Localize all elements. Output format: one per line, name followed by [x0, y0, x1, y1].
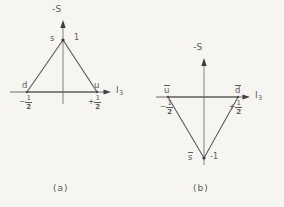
panel-b: -S I3 u d −12 +12 s -1 (b) [142, 0, 284, 207]
panel-a: -S I3 s 1 d u −12 +12 (a) [0, 0, 142, 207]
panel-a-caption: (a) [53, 183, 69, 193]
vertical-axis-arrowhead [60, 20, 65, 28]
horizontal-tick-left-denominator: 2 [25, 103, 32, 111]
vertex-dot-d [26, 91, 28, 93]
vertex-label-u-text: u [94, 80, 99, 90]
horizontal-tick-right-numerator: 1 [235, 100, 242, 108]
horizontal-tick-right-sign: + [229, 103, 235, 111]
vertex-label-ubar: u [164, 85, 169, 95]
vertex-dot-ubar [167, 96, 169, 98]
vertex-label-dbar-text: d [235, 85, 240, 95]
horizontal-axis-label-subscript: 3 [258, 94, 262, 102]
horizontal-tick-right-sign: + [88, 98, 94, 106]
vertex-label-dbar: d [235, 85, 240, 95]
horizontal-tick-left: −12 [160, 100, 173, 116]
horizontal-tick-left-fraction: 12 [166, 100, 173, 116]
horizontal-tick-right-fraction: 12 [235, 100, 242, 116]
vertex-dot-u [96, 91, 98, 93]
horizontal-tick-left-numerator: 1 [166, 100, 173, 108]
horizontal-tick-right-denominator: 2 [235, 108, 242, 116]
horizontal-axis-label: I3 [255, 91, 262, 101]
vertex-label-u: u [94, 81, 99, 90]
vertical-tick-value-top: 1 [74, 33, 79, 42]
vertex-label-sbar: s [188, 152, 192, 162]
vertical-axis-label: -S [193, 43, 203, 52]
vertex-label-d: d [22, 81, 27, 90]
triangle-outline [168, 97, 238, 158]
vertex-label-ubar-text: u [164, 85, 169, 95]
horizontal-tick-right-numerator: 1 [94, 95, 101, 103]
horizontal-axis-arrowhead [104, 89, 112, 94]
vertical-axis-label: -S [52, 5, 62, 14]
vertex-label-sbar-text: s [188, 152, 192, 162]
horizontal-tick-left: −12 [19, 95, 32, 111]
horizontal-tick-right-fraction: 12 [94, 95, 101, 111]
horizontal-tick-right: +12 [229, 100, 242, 116]
horizontal-tick-right-denominator: 2 [94, 103, 101, 111]
vertical-axis-arrowhead [201, 58, 206, 66]
vertex-dot-dbar [237, 96, 239, 98]
horizontal-tick-left-sign: − [160, 103, 166, 111]
horizontal-tick-left-numerator: 1 [25, 95, 32, 103]
vertex-dot-sbar [202, 156, 205, 159]
horizontal-axis-arrowhead [243, 94, 251, 99]
vertex-label-s: s [50, 34, 54, 43]
horizontal-axis-label: I3 [116, 86, 123, 96]
quark-weight-diagram-figure: -S I3 s 1 d u −12 +12 (a) [0, 0, 284, 207]
panel-b-caption: (b) [193, 183, 209, 193]
horizontal-tick-left-fraction: 12 [25, 95, 32, 111]
vertical-tick-value-bottom: -1 [210, 152, 218, 161]
horizontal-axis-label-subscript: 3 [119, 89, 123, 97]
horizontal-tick-left-sign: − [19, 98, 25, 106]
triangle-outline [27, 40, 97, 92]
horizontal-tick-left-denominator: 2 [166, 108, 173, 116]
vertex-dot-s [61, 38, 64, 41]
horizontal-tick-right: +12 [88, 95, 101, 111]
